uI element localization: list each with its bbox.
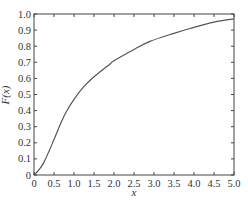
y-tick-label: 0.5	[18, 89, 31, 100]
plot-frame	[34, 14, 234, 175]
x-tick-label: 0	[31, 178, 36, 189]
chart: 00.10.20.30.40.50.60.70.80.91.0 00.51.01…	[0, 0, 248, 202]
x-axis-ticks: 00.51.01.52.02.53.03.54.04.55.0	[31, 14, 240, 189]
y-axis-ticks: 00.10.20.30.40.50.60.70.80.91.0	[18, 9, 234, 181]
y-tick-label: 0	[26, 170, 31, 181]
y-tick-label: 0.4	[18, 105, 32, 116]
y-tick-label: 0.9	[18, 25, 31, 36]
x-tick-label: 3.0	[147, 178, 160, 189]
y-tick-label: 0.1	[18, 153, 31, 164]
x-tick-label: 4.5	[207, 178, 220, 189]
y-tick-label: 0.3	[18, 121, 31, 132]
x-tick-label: 2.0	[107, 178, 120, 189]
x-tick-label: 1.0	[67, 178, 80, 189]
y-tick-label: 0.8	[18, 41, 31, 52]
x-axis-label: x	[131, 186, 137, 198]
y-tick-label: 0.2	[18, 137, 31, 148]
x-tick-label: 0.5	[47, 178, 60, 189]
x-tick-label: 3.5	[167, 178, 180, 189]
y-tick-label: 0.7	[18, 57, 31, 68]
y-tick-label: 1.0	[18, 9, 31, 20]
x-tick-label: 1.5	[87, 178, 100, 189]
cdf-curve	[34, 19, 234, 175]
x-tick-label: 5.0	[227, 178, 240, 189]
y-tick-label: 0.6	[18, 73, 31, 84]
x-tick-label: 4.0	[187, 178, 200, 189]
y-axis-label: F(x)	[0, 85, 12, 105]
